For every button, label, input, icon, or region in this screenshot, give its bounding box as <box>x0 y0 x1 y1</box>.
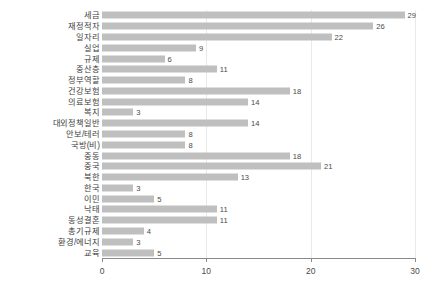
bar-value-label: 29 <box>408 11 416 20</box>
bar-container <box>102 77 185 84</box>
bar-container <box>102 98 248 105</box>
bar-container <box>102 33 332 40</box>
bar-container <box>102 217 217 224</box>
bar-value-label: 18 <box>293 151 301 160</box>
bar-container <box>102 109 133 116</box>
bar-row: 낙태11 <box>0 204 434 215</box>
bar-container <box>102 55 165 62</box>
bar <box>102 77 185 84</box>
bar-value-label: 13 <box>241 173 249 182</box>
category-label: 복지 <box>84 108 100 117</box>
category-label: 중동 <box>84 151 100 160</box>
x-tick-label: 0 <box>100 266 105 276</box>
bar-row: 교육5 <box>0 247 434 258</box>
bar-value-label: 5 <box>157 194 161 203</box>
bar-container <box>102 130 185 137</box>
category-label: 중산층 <box>76 65 100 74</box>
bar-value-label: 22 <box>335 32 343 41</box>
bar-container <box>102 249 154 256</box>
bar-value-label: 18 <box>293 86 301 95</box>
bar-value-label: 8 <box>188 76 192 85</box>
bar <box>102 249 154 256</box>
category-label: 북한 <box>84 173 100 182</box>
category-label: 중국 <box>84 162 100 171</box>
bar-value-label: 14 <box>251 97 259 106</box>
bar-value-label: 8 <box>188 140 192 149</box>
category-label: 대외정책일반 <box>53 119 100 128</box>
bar <box>102 238 133 245</box>
bar-row: 일자리22 <box>0 32 434 43</box>
x-tick-label: 20 <box>306 266 315 276</box>
bar-container <box>102 12 405 19</box>
bar-row: 총기규제4 <box>0 226 434 237</box>
bar-row: 중동18 <box>0 150 434 161</box>
bar <box>102 195 154 202</box>
category-label: 한국 <box>84 183 100 192</box>
bar <box>102 184 133 191</box>
bar-row: 국방(비)8 <box>0 139 434 150</box>
bar-container <box>102 66 217 73</box>
bar-value-label: 11 <box>220 205 228 214</box>
bar-container <box>102 23 373 30</box>
bar-row: 정부역할8 <box>0 75 434 86</box>
bar <box>102 120 248 127</box>
bar <box>102 141 185 148</box>
bar <box>102 206 217 213</box>
bar-value-label: 3 <box>136 183 140 192</box>
bar <box>102 109 133 116</box>
category-label: 재정적자 <box>68 22 100 31</box>
bar-row: 세금29 <box>0 10 434 21</box>
bar-container <box>102 163 321 170</box>
bar-container <box>102 184 133 191</box>
bar-value-label: 11 <box>220 216 228 225</box>
bar <box>102 174 238 181</box>
bar-container <box>102 44 196 51</box>
bar <box>102 87 290 94</box>
bar-row: 복지3 <box>0 107 434 118</box>
category-label: 환경/에너지 <box>58 237 100 246</box>
bar-value-label: 6 <box>168 54 172 63</box>
bar <box>102 217 217 224</box>
bar-container <box>102 228 144 235</box>
category-label: 세금 <box>84 11 100 20</box>
bar <box>102 66 217 73</box>
bar-value-label: 4 <box>147 227 151 236</box>
bar-value-label: 21 <box>324 162 332 171</box>
bar-value-label: 3 <box>136 237 140 246</box>
bar-value-label: 8 <box>188 129 192 138</box>
x-tick-mark <box>311 258 312 262</box>
category-label: 국방(비) <box>71 140 100 149</box>
bar-chart-plot: 세금29재정적자26일자리22실업9규제6중산층11정부역할8건강보험18의료보… <box>0 0 434 294</box>
category-label: 교육 <box>84 248 100 257</box>
bar-value-label: 14 <box>251 119 259 128</box>
category-label: 일자리 <box>76 32 100 41</box>
bar <box>102 33 332 40</box>
x-tick-mark <box>206 258 207 262</box>
bar-value-label: 5 <box>157 248 161 257</box>
bar-row: 중산층11 <box>0 64 434 75</box>
bar-container <box>102 87 290 94</box>
x-tick-label: 10 <box>202 266 211 276</box>
bar-container <box>102 120 248 127</box>
category-label: 안보/테러 <box>66 129 100 138</box>
bar <box>102 228 144 235</box>
bar <box>102 98 248 105</box>
bar-row: 북한13 <box>0 172 434 183</box>
bar <box>102 23 373 30</box>
bar-row: 실업9 <box>0 42 434 53</box>
category-label: 규제 <box>84 54 100 63</box>
bar <box>102 130 185 137</box>
x-tick-label: 30 <box>410 266 419 276</box>
bar-row: 동성결혼11 <box>0 215 434 226</box>
bar-row: 이민5 <box>0 193 434 204</box>
x-tick-mark <box>415 258 416 262</box>
bar-value-label: 11 <box>220 65 228 74</box>
chart-figure: 세금29재정적자26일자리22실업9규제6중산층11정부역할8건강보험18의료보… <box>0 0 434 294</box>
category-label: 총기규제 <box>68 227 100 236</box>
bar-container <box>102 238 133 245</box>
bar-row: 의료보험14 <box>0 96 434 107</box>
category-label: 실업 <box>84 43 100 52</box>
bar <box>102 12 405 19</box>
category-label: 이민 <box>84 194 100 203</box>
category-label: 건강보험 <box>68 86 100 95</box>
